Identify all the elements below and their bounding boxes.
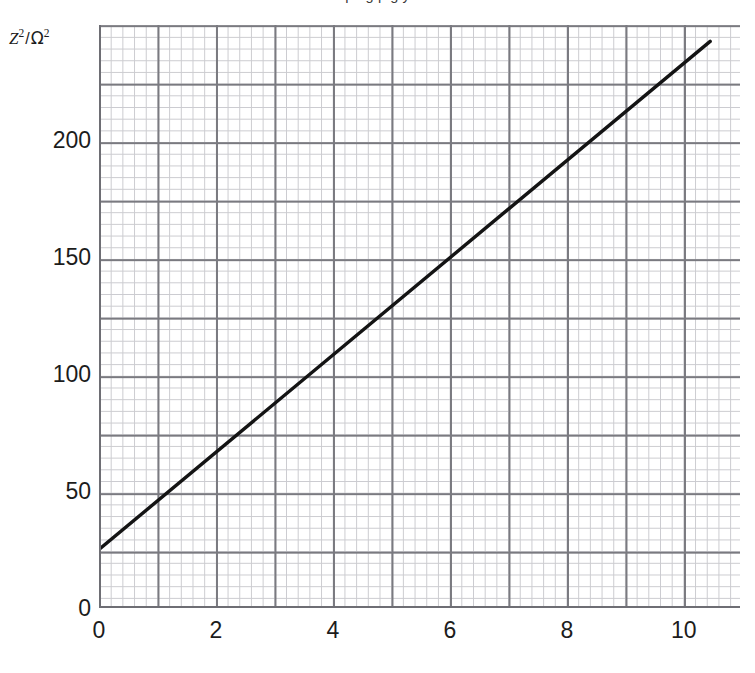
plot-area: [99, 25, 740, 608]
best-fit-line: [99, 41, 710, 549]
cropped-caption-sliver: pe g p g y: [0, 0, 755, 3]
x-tick-label: 0: [69, 619, 129, 642]
x-tick-label: 10: [654, 619, 714, 642]
y-tick-label: 50: [13, 479, 91, 502]
chart-figure: pe g p g y Z2/Ω2 050100150200 0246810: [0, 0, 755, 673]
x-tick-label: 8: [537, 619, 597, 642]
y-axis-tick-labels: 050100150200: [7, 25, 91, 608]
data-series-layer: [99, 25, 740, 608]
y-tick-label: 100: [13, 362, 91, 385]
y-tick-label: 0: [13, 597, 91, 620]
y-tick-label: 200: [13, 128, 91, 151]
x-axis-tick-labels: 0246810: [99, 619, 740, 653]
x-tick-label: 6: [420, 619, 480, 642]
y-tick-label: 150: [13, 245, 91, 268]
x-tick-label: 4: [303, 619, 363, 642]
x-tick-label: 2: [186, 619, 246, 642]
cropped-caption-text: pe g p g y: [0, 0, 755, 3]
